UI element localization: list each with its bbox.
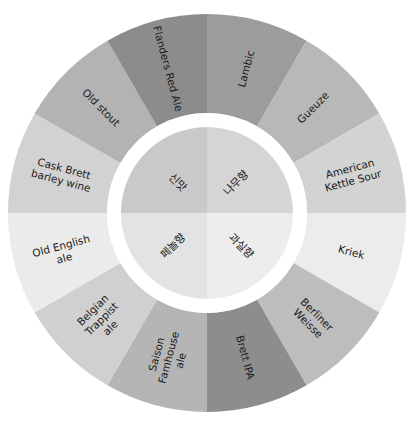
inner-disc: 나무향과실향페놀향신맛 xyxy=(121,127,293,299)
flavor-wheel: LambicGueuzeAmericanKettle SourKriekBerl… xyxy=(0,0,410,422)
